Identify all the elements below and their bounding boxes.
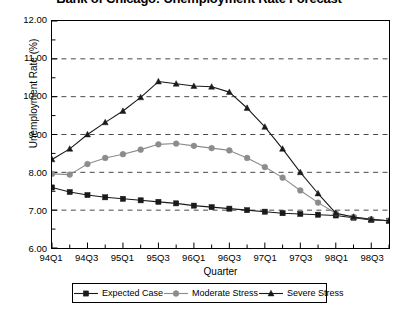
chart-legend: Expected CaseModerate StressSevere Stres… — [72, 283, 327, 303]
x-tick-label: 95Q3 — [138, 253, 178, 263]
x-tick-label: 98Q3 — [352, 253, 392, 263]
x-tick-label: 95Q1 — [102, 253, 142, 263]
legend-swatch-circle — [163, 288, 189, 299]
x-axis-title: Quarter — [51, 266, 390, 277]
legend-label: Moderate Stress — [192, 288, 258, 298]
legend-label: Expected Case — [102, 288, 163, 298]
x-tick-label: 98Q1 — [316, 253, 356, 263]
x-tick-label: 94Q3 — [67, 253, 107, 263]
chart-figure: Bank of Chicago: Unemployment Rate Forec… — [0, 0, 398, 315]
legend-item-square[interactable]: Expected Case — [73, 288, 163, 299]
x-tick-label: 94Q1 — [31, 253, 71, 263]
x-tick-label: 96Q3 — [209, 253, 249, 263]
x-tick-label: 97Q3 — [281, 253, 321, 263]
legend-swatch-triangle — [258, 288, 284, 299]
legend-label: Severe Stress — [287, 288, 344, 298]
x-tick-label: 97Q1 — [245, 253, 285, 263]
legend-item-triangle[interactable]: Severe Stress — [258, 288, 344, 299]
x-tick-label: 96Q1 — [174, 253, 214, 263]
marker-circle — [173, 290, 179, 296]
legend-item-circle[interactable]: Moderate Stress — [163, 288, 258, 299]
legend-swatch-square — [73, 288, 99, 299]
marker-square — [83, 290, 88, 295]
